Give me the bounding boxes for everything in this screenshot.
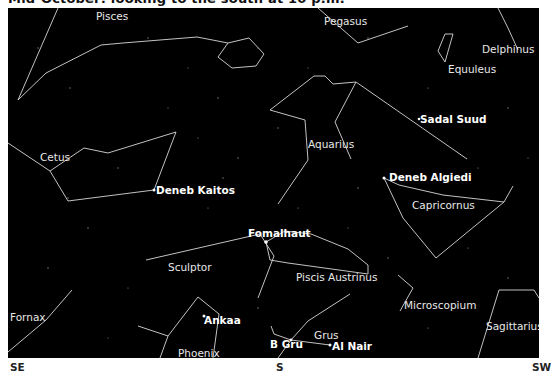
constellation-label-equuleus: Equuleus [448, 64, 496, 75]
constellation-label-fornax: Fornax [10, 312, 46, 323]
star-label-fomalhaut: Fomalhaut [248, 228, 311, 239]
background-stars [37, 37, 528, 338]
star-label-sadal-suud: Sadal Suud [420, 114, 487, 125]
constellation-label-piscis-austrinus: Piscis Austrinus [296, 272, 377, 283]
constellation-label-sculptor: Sculptor [168, 262, 212, 273]
direction-label-sw: SW [532, 361, 551, 373]
direction-label-se: SE [10, 361, 25, 373]
constellation-label-delphinus: Delphinus [482, 44, 534, 55]
direction-label-s: S [276, 361, 284, 373]
star-label-deneb-algiedi: Deneb Algiedi [389, 172, 472, 183]
constellation-label-pisces: Pisces [96, 11, 128, 22]
constellation-label-pegasus: Pegasus [324, 16, 367, 27]
constellation-label-cetus: Cetus [40, 152, 70, 163]
constellation-label-phoenix: Phoenix [178, 348, 220, 358]
constellation-label-capricornus: Capricornus [412, 200, 475, 211]
star-label-b-gru: B Gru [270, 339, 303, 350]
constellation-label-sagittarius: Sagittarius [486, 321, 539, 332]
constellation-label-grus: Grus [314, 330, 339, 341]
constellation-label-aquarius: Aquarius [308, 139, 354, 150]
star-label-deneb-kaitos: Deneb Kaitos [156, 185, 235, 196]
constellation-label-microscopium: Microscopium [404, 300, 476, 311]
star-label-ankaa: Ankaa [204, 315, 241, 326]
star-chart: Pisces Pegasus Delphinus Equuleus Cetus … [8, 8, 539, 358]
chart-caption: Mid-October: looking to the south at 10 … [8, 0, 345, 6]
star-label-al-nair: Al Nair [332, 341, 372, 352]
